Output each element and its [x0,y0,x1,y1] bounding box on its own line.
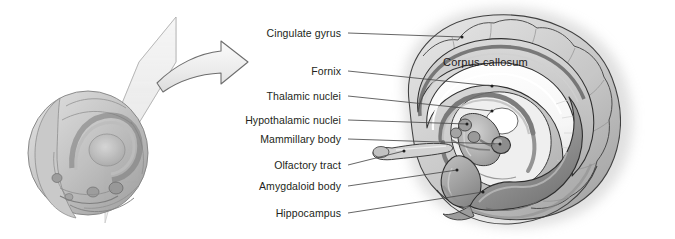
figure-root: Cingulate gyrusFornixThalamic nucleiHypo… [0,0,675,239]
label-hypothalamic-nuclei: Hypothalamic nuclei [0,115,341,126]
label-thalamic-nuclei: Thalamic nuclei [0,91,341,102]
label-amygdaloid-body: Amygdaloid body [0,181,341,192]
label-olfactory-tract: Olfactory tract [0,160,341,171]
label-hippocampus: Hippocampus [0,208,341,219]
label-layer: Cingulate gyrusFornixThalamic nucleiHypo… [0,0,675,239]
label-mammillary-body: Mammillary body [0,134,341,145]
label-cingulate-gyrus: Cingulate gyrus [0,28,341,39]
label-corpus-callosum: Corpus callosum [443,56,528,68]
label-fornix: Fornix [0,66,341,77]
